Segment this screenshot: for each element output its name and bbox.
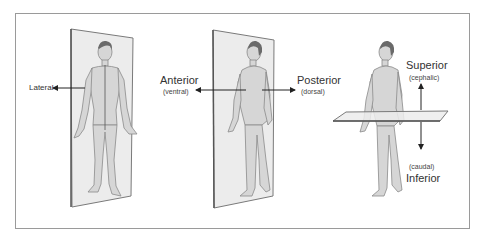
label-caudal: (caudal) xyxy=(409,163,434,170)
label-dorsal: (dorsal) xyxy=(301,88,325,95)
label-anterior: Anterior xyxy=(160,75,199,86)
panel-frontal xyxy=(196,30,295,208)
label-posterior: Posterior xyxy=(297,75,341,86)
transverse-plane xyxy=(333,111,448,121)
anatomy-illustration xyxy=(0,0,488,242)
label-ventral: (ventral) xyxy=(163,88,189,95)
label-superior: Superior xyxy=(406,60,448,71)
label-lateral: Lateral xyxy=(29,84,53,92)
panel-midsagittal xyxy=(53,29,137,207)
label-cephalic: (cephalic) xyxy=(409,74,439,81)
label-inferior: Inferior xyxy=(406,173,440,184)
